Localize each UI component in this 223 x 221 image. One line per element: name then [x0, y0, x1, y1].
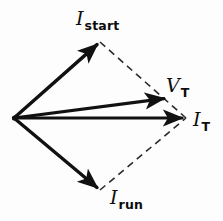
- label-i-run-subscript: run: [119, 197, 144, 212]
- label-i-t-subscript: T: [202, 119, 211, 134]
- origin-vertex: [12, 115, 17, 120]
- vector-i-run: [14, 118, 97, 187]
- label-i-start-symbol: I: [76, 7, 84, 29]
- label-i-start-subscript: start: [85, 18, 120, 33]
- label-v-t-symbol: V: [166, 74, 180, 96]
- label-i-start: Istart: [76, 9, 119, 28]
- vector-v-t: [14, 99, 164, 118]
- label-i-run: Irun: [110, 188, 142, 207]
- label-v-t-subscript: T: [181, 85, 190, 100]
- vector-i-start: [14, 45, 97, 118]
- label-i-t: IT: [193, 110, 209, 129]
- phasor-diagram-figure: Istart VT IT Irun: [0, 0, 223, 221]
- label-i-t-symbol: I: [193, 108, 201, 130]
- dashed-construction-line-lower: [100, 118, 186, 190]
- label-i-run-symbol: I: [110, 186, 118, 208]
- label-v-t: VT: [166, 76, 188, 95]
